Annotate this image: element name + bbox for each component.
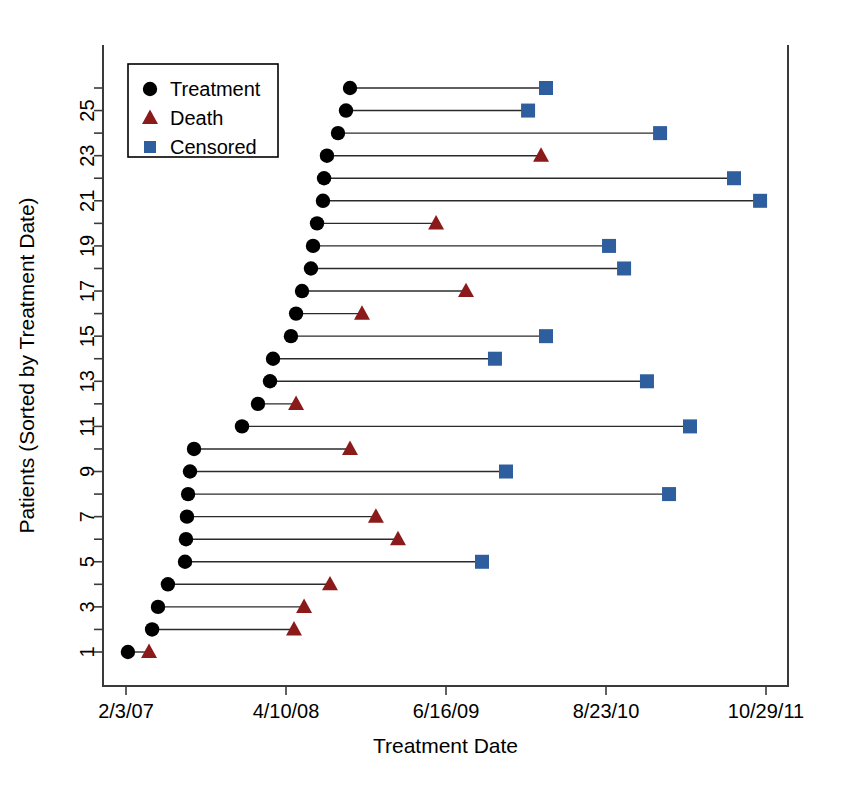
death-marker [288, 395, 304, 409]
treatment-marker [343, 81, 357, 95]
death-marker [342, 441, 358, 455]
x-axis-ticks [126, 686, 766, 695]
event-markers-layer [121, 81, 767, 659]
death-marker [390, 531, 406, 545]
censored-marker [617, 261, 631, 275]
censored-marker [727, 171, 741, 185]
treatment-marker [306, 239, 320, 253]
y-tick-label: 13 [76, 370, 98, 392]
y-tick-label: 5 [76, 556, 98, 567]
treatment-marker [317, 171, 331, 185]
treatment-marker [151, 600, 165, 614]
treatment-marker [180, 509, 194, 523]
swimmer-plot-svg: 2/3/074/10/086/16/098/23/1010/29/11 1357… [0, 0, 842, 789]
death-marker [368, 508, 384, 522]
y-tick-label: 11 [76, 416, 98, 437]
treatment-marker [235, 419, 249, 433]
death-marker [428, 215, 444, 229]
censored-marker [521, 104, 535, 118]
treatment-marker [316, 194, 330, 208]
legend-label: Death [170, 107, 223, 129]
treatment-marker [145, 622, 159, 636]
x-axis-tick-labels: 2/3/074/10/086/16/098/23/1010/29/11 [98, 700, 804, 722]
death-marker [458, 283, 474, 297]
treatment-marker [187, 442, 201, 456]
y-tick-label: 23 [76, 145, 98, 167]
y-tick-label: 7 [76, 511, 98, 522]
death-marker [354, 305, 370, 319]
legend-square-icon [144, 141, 156, 153]
x-tick-label: 4/10/08 [253, 700, 320, 722]
treatment-marker [161, 577, 175, 591]
y-axis-title: Patients (Sorted by Treatment Date) [15, 197, 38, 533]
death-marker [296, 598, 312, 612]
treatment-marker [181, 487, 195, 501]
legend-circle-icon [143, 82, 157, 96]
treatment-marker [284, 329, 298, 343]
y-tick-label: 3 [76, 601, 98, 612]
censored-marker [475, 555, 489, 569]
y-tick-label: 25 [76, 99, 98, 121]
censored-marker [539, 329, 553, 343]
x-tick-label: 2/3/07 [98, 700, 154, 722]
chart-legend: TreatmentDeathCensored [128, 64, 278, 158]
treatment-marker [266, 352, 280, 366]
death-marker [141, 644, 157, 658]
treatment-marker [178, 555, 192, 569]
x-tick-label: 10/29/11 [728, 700, 804, 722]
y-tick-label: 17 [76, 280, 98, 302]
censored-marker [653, 126, 667, 140]
y-axis-tick-labels: 135791113151719212325 [76, 99, 98, 657]
censored-marker [539, 81, 553, 95]
patient-segments-layer [128, 88, 760, 652]
legend-label: Treatment [170, 78, 261, 100]
death-marker [286, 621, 302, 635]
treatment-marker [310, 216, 324, 230]
y-tick-label: 21 [76, 190, 98, 212]
death-marker [322, 576, 338, 590]
censored-marker [753, 194, 767, 208]
y-tick-label: 15 [76, 325, 98, 347]
x-tick-label: 8/23/10 [573, 700, 640, 722]
censored-marker [488, 352, 502, 366]
y-tick-label: 9 [76, 466, 98, 477]
censored-marker [499, 465, 513, 479]
treatment-marker [289, 306, 303, 320]
y-tick-label: 1 [76, 646, 98, 657]
treatment-marker [183, 464, 197, 478]
treatment-marker [339, 103, 353, 117]
treatment-marker [304, 261, 318, 275]
chart-canvas: 2/3/074/10/086/16/098/23/1010/29/11 1357… [0, 0, 842, 789]
x-tick-label: 6/16/09 [413, 700, 480, 722]
death-marker [533, 147, 549, 161]
censored-marker [640, 374, 654, 388]
treatment-marker [251, 397, 265, 411]
x-axis-title: Treatment Date [373, 734, 518, 757]
treatment-marker [179, 532, 193, 546]
treatment-marker [320, 148, 334, 162]
treatment-marker [295, 284, 309, 298]
treatment-marker [331, 126, 345, 140]
y-tick-label: 19 [76, 235, 98, 257]
treatment-marker [121, 645, 135, 659]
censored-marker [602, 239, 616, 253]
legend-label: Censored [170, 136, 257, 158]
censored-marker [662, 487, 676, 501]
treatment-marker [263, 374, 277, 388]
censored-marker [683, 419, 697, 433]
